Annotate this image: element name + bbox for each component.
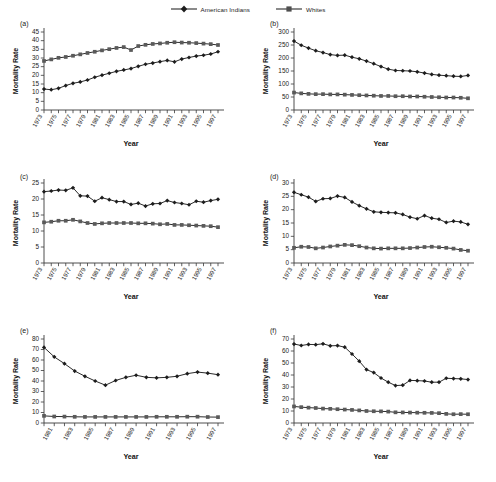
y-tick-label: 10 [32, 227, 40, 234]
data-point [122, 199, 126, 203]
y-axis-label: Mortality Rate [12, 200, 20, 246]
data-point [423, 411, 427, 415]
data-point [408, 246, 412, 250]
data-point [151, 222, 155, 226]
data-point [328, 245, 332, 249]
x-tick-label: 1979 [74, 265, 87, 281]
y-tick-label: 50 [282, 93, 290, 100]
x-tick-label: 1975 [45, 265, 58, 281]
chart-svg: 0501001502002503001973197519771979198119… [248, 18, 496, 155]
data-point [444, 246, 448, 250]
y-tick-label: 30 [32, 387, 40, 394]
x-tick-label: 1979 [74, 112, 87, 128]
data-point [129, 48, 133, 52]
data-point [393, 211, 397, 215]
data-point [444, 96, 448, 100]
data-point [100, 221, 104, 225]
y-axis-label: Mortality Rate [12, 48, 20, 94]
data-point [209, 42, 213, 46]
data-point [292, 405, 296, 409]
x-tick-label: 1989 [397, 265, 410, 281]
x-axis-label: Year [123, 139, 138, 148]
x-tick-label: 1993 [426, 265, 439, 281]
x-tick-label: 1981 [339, 265, 352, 281]
x-tick-label: 1977 [310, 425, 323, 441]
x-tick-label: 1997 [205, 112, 218, 128]
x-tick-label: 1983 [103, 112, 116, 128]
y-tick-label: 0 [285, 419, 289, 426]
x-tick-label: 1981 [339, 425, 352, 441]
data-point [459, 248, 463, 252]
data-point [64, 55, 68, 59]
data-point [408, 69, 412, 73]
data-point [154, 376, 158, 380]
data-point [459, 74, 463, 78]
x-axis-label: Year [123, 452, 138, 461]
data-point [202, 224, 206, 228]
data-point [57, 56, 61, 60]
data-point [444, 412, 448, 416]
data-point [299, 193, 303, 197]
y-tick-label: 20 [282, 205, 290, 212]
data-point [185, 372, 189, 376]
y-tick-label: 20 [32, 398, 40, 405]
x-tick-label: 1993 [176, 112, 189, 128]
y-tick-label: 0 [285, 106, 289, 113]
data-point [379, 247, 383, 251]
data-point [357, 409, 361, 413]
data-point [466, 222, 470, 226]
x-tick-label: 1991 [411, 265, 424, 281]
y-tick-label: 15 [32, 211, 40, 218]
series-line-american-indians [44, 347, 218, 385]
data-point [393, 68, 397, 72]
data-point [122, 68, 126, 72]
data-point [335, 194, 339, 198]
legend-marker-square [276, 5, 302, 13]
data-point [408, 411, 412, 415]
data-point [307, 406, 311, 410]
data-point [401, 69, 405, 73]
x-tick-label: 1977 [60, 112, 73, 128]
chart-svg: 0510152025303540451973197519771979198119… [0, 18, 248, 155]
x-tick-label: 1973 [281, 265, 294, 281]
data-point [299, 343, 303, 347]
y-tick-label: 50 [282, 359, 290, 366]
x-tick-label: 1985 [368, 265, 381, 281]
data-point [114, 69, 118, 73]
data-point [86, 51, 90, 55]
y-axis-label: Mortality Rate [262, 200, 270, 246]
data-point [93, 222, 97, 226]
data-point [42, 87, 46, 91]
y-tick-label: 150 [278, 67, 289, 74]
data-point [173, 40, 177, 44]
y-tick-label: 30 [32, 54, 40, 61]
data-point [180, 57, 184, 61]
data-point [216, 225, 220, 229]
data-point [216, 197, 220, 201]
series-line-american-indians [294, 41, 468, 76]
y-tick-label: 30 [282, 383, 290, 390]
data-point [314, 406, 318, 410]
data-point [201, 200, 205, 204]
chart-svg: 0102030405060708019811983198519871989199… [0, 325, 248, 482]
y-tick-label: 250 [278, 41, 289, 48]
plot-f: 0102030405060701973197519771979198119831… [248, 325, 496, 482]
data-point [216, 50, 220, 54]
panel-a: (a)0510152025303540451973197519771979198… [0, 18, 248, 155]
data-point [299, 245, 303, 249]
data-point [187, 203, 191, 207]
data-point [206, 415, 210, 419]
data-point [180, 201, 184, 205]
data-point [430, 411, 434, 415]
data-point [292, 342, 296, 346]
x-tick-label: 1987 [382, 112, 395, 128]
data-point [321, 197, 325, 201]
data-point [134, 415, 138, 419]
x-tick-label: 1979 [324, 112, 337, 128]
data-point [185, 415, 189, 419]
x-tick-label: 1981 [41, 425, 54, 441]
data-point [71, 81, 75, 85]
data-point [194, 224, 198, 228]
plot-a: 0510152025303540451973197519771979198119… [0, 18, 248, 155]
data-point [437, 380, 441, 384]
